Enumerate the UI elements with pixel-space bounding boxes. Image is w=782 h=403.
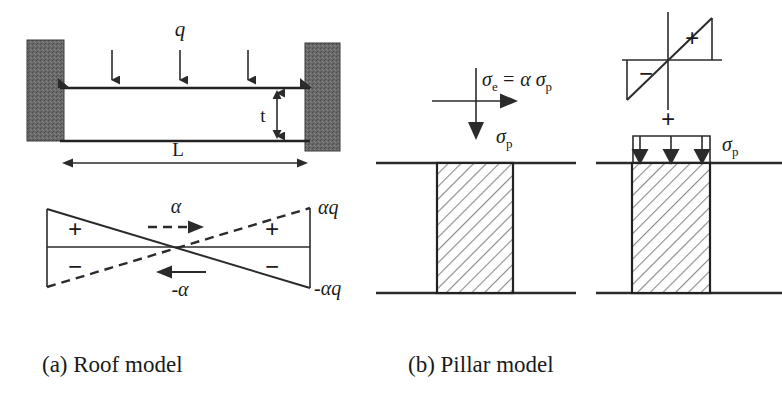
- roof-thickness-dimension: t: [260, 90, 281, 139]
- roof-right-support: [305, 43, 340, 151]
- svg-text:σe= α σp: σe= α σp: [482, 68, 552, 94]
- neg-alpha-arrowhead: [156, 266, 172, 279]
- span-arrowhead-right: [297, 159, 308, 168]
- stress-alpha-q-label: αq: [318, 196, 339, 219]
- left-pillar-block: [437, 163, 513, 293]
- right-pillar-combine-sign: +: [661, 106, 675, 133]
- stress-neg-alpha-q-label: -αq: [314, 277, 341, 300]
- panel-a-roof-model: q t L: [27, 17, 341, 377]
- roof-span-dimension: L: [62, 139, 308, 168]
- stress-right-minus-sign: −: [265, 253, 279, 280]
- alpha-arrowhead: [188, 221, 204, 234]
- stress-alpha-arrow-left: -α: [156, 266, 206, 301]
- panel-b-pillar-model: σe= α σp σp: [376, 12, 782, 377]
- stress-left-minus-sign: −: [68, 253, 82, 280]
- roof-thickness-label: t: [260, 105, 266, 126]
- bending-plus-sign: +: [685, 25, 699, 52]
- left-pillar-sigma-p-label: σp: [496, 125, 512, 151]
- bending-diagonal: [627, 18, 712, 100]
- sigma-p-arrowhead: [468, 122, 484, 140]
- roof-stress-diagram: + − + − α -α αq -αq: [47, 195, 341, 300]
- panel-b-caption: (b) Pillar model: [408, 352, 554, 377]
- stress-right-plus-sign: +: [265, 216, 279, 243]
- stress-alpha-arrow-right: α: [148, 195, 204, 234]
- stress-neg-alpha-label: -α: [171, 278, 189, 300]
- roof-load-arrows: [58, 50, 312, 88]
- bending-minus-sign: −: [639, 60, 653, 87]
- engineering-figure: q t L: [0, 0, 782, 403]
- sigma-e-arrowhead: [500, 94, 518, 109]
- right-pillar-block: [632, 163, 710, 293]
- sigma-e-equals-alpha: = α σ: [502, 68, 547, 90]
- right-pillar-sigma-p-label: σp: [722, 133, 738, 159]
- thickness-arrowhead-bottom: [273, 130, 282, 139]
- sigma-p-subscript-a: p: [546, 79, 553, 94]
- right-pillar-load-bracket: [632, 136, 711, 165]
- stress-left-plus-sign: +: [68, 216, 82, 243]
- svg-text:σp: σp: [722, 133, 738, 159]
- roof-load-label: q: [175, 17, 186, 41]
- right-pillar-group: + − + σp: [596, 12, 782, 293]
- svg-text:σp: σp: [496, 125, 512, 151]
- right-sigma-p-sub: p: [732, 144, 739, 159]
- sigma-p-sub: p: [506, 136, 513, 151]
- stress-alpha-label: α: [171, 195, 182, 217]
- figure-root: q t L: [0, 0, 782, 403]
- panel-a-caption: (a) Roof model: [42, 352, 183, 377]
- left-pillar-group: σe= α σp σp: [376, 68, 576, 293]
- roof-span-label: L: [172, 139, 184, 160]
- right-pillar-bending-diagram: + −: [622, 12, 722, 110]
- sigma-e-subscript: e: [492, 79, 498, 94]
- thickness-arrowhead-top: [273, 90, 282, 99]
- left-pillar-sigma-e-label: σe= α σp: [482, 68, 552, 94]
- span-arrowhead-left: [62, 159, 73, 168]
- roof-left-support: [27, 40, 64, 141]
